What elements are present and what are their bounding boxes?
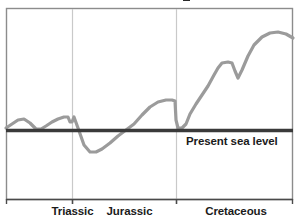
present-sea-level-label: Present sea level [186, 136, 278, 148]
axis-label-jurassic: Jurassic [77, 206, 182, 218]
axis-label-cretaceous: Cretaceous [180, 206, 292, 218]
sea-level-curve-figure: Present sea level Triassic Jurassic Cret… [0, 0, 299, 223]
plot-frame [7, 9, 293, 200]
chart-canvas [0, 0, 299, 223]
sea-level-curve-line [6, 32, 293, 152]
